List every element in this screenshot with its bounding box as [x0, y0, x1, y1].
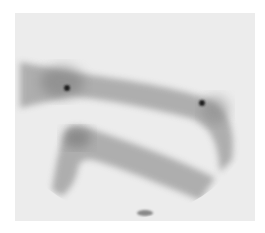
hotspot-right: [199, 100, 205, 106]
lower-left-uptake: [63, 128, 91, 148]
scan-image: [15, 13, 255, 221]
upper-left-uptake: [40, 66, 84, 98]
bottom-uptake: [137, 210, 153, 216]
scintigraphy-svg: [15, 13, 255, 221]
upper-right-uptake: [201, 96, 229, 124]
hotspot-left: [64, 85, 70, 91]
